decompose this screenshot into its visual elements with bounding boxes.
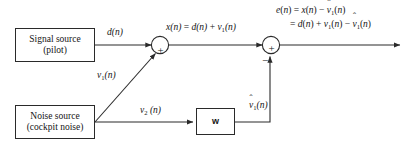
adaptive-filter-block[interactable]: w bbox=[196, 108, 235, 135]
summing-junction-2-plus-sign: + bbox=[269, 43, 275, 54]
signal-label-d: d(n) bbox=[107, 27, 123, 37]
noise-source-block[interactable]: Noise source (cockpit noise) bbox=[15, 105, 95, 139]
adaptive-filter-label: w bbox=[212, 116, 219, 127]
noise-source-line1: Noise source bbox=[30, 111, 79, 122]
noise-source-line2: (cockpit noise) bbox=[27, 122, 84, 133]
block-diagram-canvas: Signal source (pilot) Noise source (cock… bbox=[0, 0, 409, 158]
wire-vhat-filter-to-sum2 bbox=[235, 57, 270, 123]
signal-label-v1-hat: v1(n) bbox=[249, 100, 268, 110]
summing-junction-1-plus-sign: + bbox=[158, 45, 164, 56]
signal-source-block[interactable]: Signal source (pilot) bbox=[15, 28, 95, 62]
summing-junction-2-minus-sign: − bbox=[262, 55, 268, 66]
signal-source-line2: (pilot) bbox=[43, 45, 67, 56]
error-equation-line-1: e(n) = x(n) − v1(n) bbox=[276, 4, 371, 18]
signal-label-v1: v1(n) bbox=[97, 70, 116, 80]
signal-source-line1: Signal source bbox=[29, 34, 80, 45]
error-equation-line-2: = d(n) + v1(n) − v1(n) bbox=[276, 18, 371, 32]
error-equation-block: e(n) = x(n) − v1(n) = d(n) + v1(n) − v1(… bbox=[276, 4, 371, 32]
signal-label-v2: v2 (n) bbox=[140, 105, 161, 115]
signal-label-x-equation: x(n) = d(n) + v1(n) bbox=[166, 22, 236, 32]
